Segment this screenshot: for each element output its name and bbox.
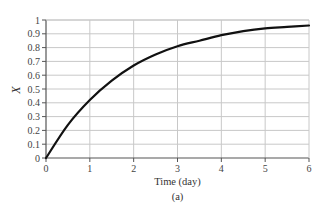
y-tick-label: 0.8 [28,42,41,53]
x-tick-label: 2 [131,163,136,174]
y-tick-label: 0.7 [28,56,41,67]
x-tick-labels: 0123456 [44,163,312,174]
y-axis-label: X [9,86,23,95]
y-tick-label: 0.9 [28,28,41,39]
y-tick-label: 0.6 [28,70,41,81]
x-axis-label: Time (day) [154,176,201,188]
x-tick-label: 0 [44,163,49,174]
axes [42,20,309,162]
y-tick-label: 0 [35,153,40,164]
y-tick-label: 0.1 [28,139,41,150]
y-tick-label: 1 [35,15,40,26]
figure-caption: (a) [172,191,184,203]
x-tick-label: 4 [219,163,224,174]
gridlines [46,20,309,158]
y-tick-label: 0.4 [28,97,41,108]
x-tick-label: 1 [87,163,92,174]
y-tick-labels: 00.10.20.30.40.50.60.70.80.91 [28,15,41,164]
y-tick-label: 0.3 [28,111,41,122]
x-tick-label: 3 [175,163,180,174]
chart: 00.10.20.30.40.50.60.70.80.91 0123456 Ti… [0,0,322,211]
x-tick-label: 5 [263,163,268,174]
y-tick-label: 0.5 [28,84,41,95]
y-tick-label: 0.2 [28,125,41,136]
x-tick-label: 6 [307,163,312,174]
